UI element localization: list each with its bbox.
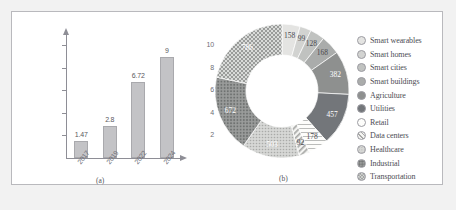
- bar-chart-panel-a: 246810 1.472.86.729 2017201920222024 (a): [24, 18, 214, 186]
- bar-value-label: 9: [153, 47, 181, 54]
- donut-slice-value: 503: [267, 140, 279, 149]
- figure-panel: 246810 1.472.86.729 2017201920222024 (a): [11, 11, 443, 185]
- legend-swatch-icon: [357, 131, 366, 140]
- donut-legend: Smart wearablesSmart homesSmart citiesSm…: [357, 34, 453, 184]
- donut-slices: [215, 24, 349, 158]
- legend-swatch-icon: [357, 159, 366, 168]
- legend-swatch-icon: [357, 145, 366, 154]
- legend-swatch-icon: [357, 36, 366, 45]
- legend-item-utilities[interactable]: Utilities: [357, 102, 453, 116]
- caption-a: (a): [96, 176, 104, 185]
- donut-svg: 1589912816838245717892503672786: [207, 16, 357, 166]
- legend-item-retail[interactable]: Retail: [357, 116, 453, 130]
- legend-item-label: Smart buildings: [370, 77, 419, 86]
- donut-slice-value: 786: [241, 43, 253, 52]
- legend-item-smart-cities[interactable]: Smart cities: [357, 61, 453, 75]
- donut-slice-value: 168: [317, 48, 329, 57]
- donut-slice-value: 128: [306, 39, 318, 48]
- legend-swatch-icon: [357, 118, 366, 127]
- legend-swatch-icon: [357, 77, 366, 86]
- legend-swatch-icon: [357, 63, 366, 72]
- bars-area: 1.472.86.729: [67, 34, 181, 158]
- bar: [160, 57, 174, 158]
- legend-item-smart-buildings[interactable]: Smart buildings: [357, 75, 453, 89]
- bar-value-label: 6.72: [124, 72, 152, 79]
- legend-swatch-icon: [357, 172, 366, 181]
- donut-slice-value: 382: [330, 70, 342, 79]
- legend-item-label: Smart homes: [370, 50, 411, 59]
- caption-b: (b): [279, 174, 288, 183]
- legend-item-label: Transportation: [370, 172, 415, 181]
- figure-container: 246810 1.472.86.729 2017201920222024 (a): [0, 0, 456, 210]
- legend-item-transportation[interactable]: Transportation: [357, 170, 453, 184]
- legend-item-industrial[interactable]: Industrial: [357, 156, 453, 170]
- donut-slice: [216, 24, 282, 84]
- legend-item-label: Smart cities: [370, 63, 407, 72]
- donut-slice-value: 158: [284, 31, 296, 40]
- donut-slice-value: 99: [298, 34, 306, 43]
- legend-item-healthcare[interactable]: Healthcare: [357, 143, 453, 157]
- legend-swatch-icon: [357, 50, 366, 59]
- donut-slice-value: 672: [225, 106, 237, 115]
- donut-chart-panel-b: 1589912816838245717892503672786 (b): [207, 16, 357, 184]
- legend-item-label: Retail: [370, 118, 389, 127]
- donut-slice-value: 457: [326, 110, 338, 119]
- legend-swatch-icon: [357, 104, 366, 113]
- donut-slice-value: 178: [306, 132, 318, 141]
- legend-item-smart-homes[interactable]: Smart homes: [357, 48, 453, 62]
- legend-item-label: Data centers: [370, 131, 409, 140]
- x-axis-arrow-icon: [180, 155, 187, 161]
- legend-item-label: Utilities: [370, 104, 395, 113]
- legend-item-label: Agriculture: [370, 91, 406, 100]
- legend-item-label: Smart wearables: [370, 36, 422, 45]
- bar: [131, 82, 145, 158]
- bar-value-label: 1.47: [67, 131, 95, 138]
- donut-slice-value: 92: [297, 138, 305, 147]
- legend-item-smart-wearables[interactable]: Smart wearables: [357, 34, 453, 48]
- legend-item-label: Industrial: [370, 159, 400, 168]
- legend-item-data-centers[interactable]: Data centers: [357, 129, 453, 143]
- legend-item-agriculture[interactable]: Agriculture: [357, 88, 453, 102]
- legend-swatch-icon: [357, 91, 366, 100]
- bar-value-label: 2.8: [96, 116, 124, 123]
- legend-item-label: Healthcare: [370, 145, 404, 154]
